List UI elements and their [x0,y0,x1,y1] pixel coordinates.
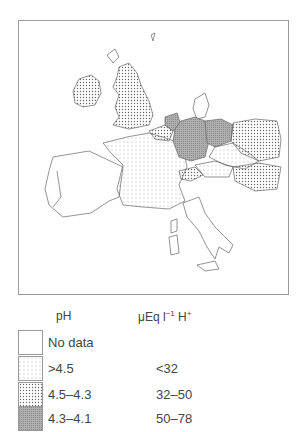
swatch-dense-dots [18,382,43,407]
ueq-column-header: μEq l−1 H+ [138,309,191,324]
region-hungary [233,163,281,191]
region-italy [183,197,233,259]
map-frame [18,20,289,295]
ueq-label: 50–78 [156,411,192,426]
ph-column-header: pH [56,309,71,323]
region-denmark [193,93,209,119]
swatch-fine-dots [18,356,43,381]
ueq-header-exp: −1 [166,309,175,318]
ph-label: 4.5–4.3 [48,387,91,402]
legend-item-gt-4-5: >4.5 <32 [18,356,298,382]
ph-label: 4.3–4.1 [48,411,91,426]
legend-item-no-data: No data [18,330,298,356]
region-east-germany [205,119,233,147]
region-great-britain [113,63,153,129]
legend-item-4-5-4-3: 4.5–4.3 32–50 [18,382,298,408]
ueq-label: 32–50 [156,387,192,402]
ueq-label: <32 [156,361,178,376]
swatch-grey-hatch [18,406,43,431]
swatch-no-data [18,330,43,355]
region-ireland [73,75,101,107]
europe-acidity-map [19,21,290,296]
region-iberia [45,151,123,217]
ph-label: >4.5 [48,361,74,376]
ueq-header-unit: H [175,310,187,324]
ueq-header-prefix: μEq l [138,310,166,324]
ph-label: No data [48,335,94,350]
ueq-header-sup: + [187,309,192,318]
legend-item-4-3-4-1: 4.3–4.1 50–78 [18,406,298,432]
